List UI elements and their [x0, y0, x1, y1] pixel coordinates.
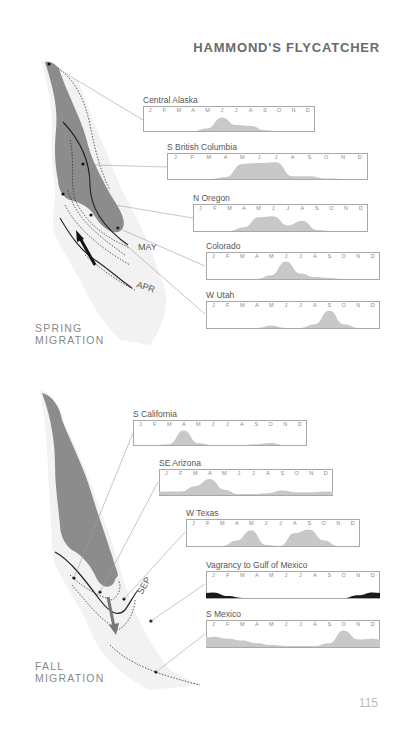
fall-label: FALL MIGRATION [35, 660, 105, 684]
chart-title: Vagrancy to Gulf of Mexico [206, 560, 307, 570]
chart-title: Colorado [206, 241, 241, 251]
spring-label-line2: MIGRATION [35, 334, 105, 346]
chart-area [206, 301, 380, 329]
chart-title: W Utah [206, 290, 234, 300]
chart-vagrancy-gulf-of-mexico: Vagrancy to Gulf of Mexico JFMAMJJASOND [206, 571, 380, 599]
spring-range-map: MAY APR [0, 40, 210, 360]
chart-area [133, 420, 307, 446]
fall-label-line2: MIGRATION [35, 672, 105, 684]
chart-s-british-columbia: S British Columbia JFMAMJJASOND [167, 153, 368, 180]
chart-w-utah: W Utah JFMAMJJASOND [206, 301, 380, 329]
spring-label-line1: SPRING [35, 322, 105, 334]
chart-title: W Texas [186, 508, 218, 518]
chart-title: Central Alaska [143, 95, 198, 105]
chart-n-oregon: N Oregon JFMAMJJASOND [193, 204, 368, 232]
may-label: MAY [138, 242, 157, 252]
sep-label: SEP [135, 575, 153, 596]
chart-area [186, 519, 360, 547]
page-title: HAMMOND'S FLYCATCHER [193, 40, 380, 55]
chart-area [193, 204, 368, 232]
chart-area [206, 620, 380, 648]
chart-area [143, 106, 315, 132]
chart-area [206, 571, 380, 599]
chart-title: S Mexico [206, 609, 241, 619]
spring-label: SPRING MIGRATION [35, 322, 105, 346]
chart-title: N Oregon [193, 193, 230, 203]
chart-title: S British Columbia [167, 142, 237, 152]
fall-label-line1: FALL [35, 660, 105, 672]
chart-title: S California [133, 409, 177, 419]
chart-colorado: Colorado JFMAMJJASOND [206, 252, 380, 280]
chart-area [206, 252, 380, 280]
chart-area [159, 469, 333, 496]
chart-s-california: S California JFMAMJJASOND [133, 420, 307, 446]
chart-central-alaska: Central Alaska JFMAMJJASOND [143, 106, 315, 132]
chart-w-texas: W Texas JFMAMJJASOND [186, 519, 360, 547]
chart-area [167, 153, 368, 180]
chart-title: SE Arizona [159, 458, 201, 468]
chart-s-mexico: S Mexico JFMAMJJASOND [206, 620, 380, 648]
page-number: 115 [359, 696, 378, 710]
chart-se-arizona: SE Arizona JFMAMJJASOND [159, 469, 333, 496]
